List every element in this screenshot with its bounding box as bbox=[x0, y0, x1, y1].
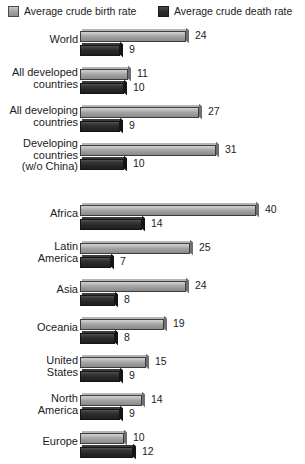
bar-body bbox=[80, 409, 120, 420]
row-label: UnitedStates bbox=[0, 355, 78, 378]
bar-value-label: 9 bbox=[129, 44, 135, 55]
bar-end-cap bbox=[142, 392, 145, 408]
bar-birth: 31 bbox=[80, 143, 220, 156]
row-label: Asia bbox=[0, 284, 78, 296]
bar-value-label: 24 bbox=[195, 280, 207, 291]
bar-birth: 11 bbox=[80, 67, 132, 80]
aggregate-group: World249All developedcountries1110All de… bbox=[0, 28, 305, 180]
row-label: NorthAmerica bbox=[0, 393, 78, 416]
bar-body bbox=[80, 205, 256, 216]
bar-end-cap bbox=[256, 202, 259, 218]
bar-end-cap bbox=[115, 292, 118, 308]
bar-death: 7 bbox=[80, 255, 115, 268]
bar-end-cap bbox=[186, 278, 189, 294]
bar-end-cap bbox=[164, 316, 167, 332]
bar-value-label: 8 bbox=[124, 332, 130, 343]
bar-value-label: 7 bbox=[120, 256, 126, 267]
legend-label-birth: Average crude birth rate bbox=[24, 6, 136, 17]
bar-body bbox=[80, 219, 142, 230]
row-label: Oceania bbox=[0, 322, 78, 334]
chart-row: All developedcountries1110 bbox=[0, 66, 305, 104]
bar-body bbox=[80, 243, 190, 254]
bar-end-cap bbox=[124, 156, 127, 172]
bar-value-label: 9 bbox=[129, 408, 135, 419]
bar-body bbox=[80, 371, 120, 382]
bar-birth: 24 bbox=[80, 29, 190, 42]
bar-end-cap bbox=[128, 66, 131, 82]
row-label: Europe bbox=[0, 436, 78, 448]
row-label: Developingcountries(w/o China) bbox=[0, 138, 78, 173]
bar-birth: 15 bbox=[80, 355, 150, 368]
bar-death: 9 bbox=[80, 407, 124, 420]
bar-death: 9 bbox=[80, 369, 124, 382]
bar-body bbox=[80, 257, 111, 268]
bar-birth: 27 bbox=[80, 105, 203, 118]
bar-end-cap bbox=[190, 240, 193, 256]
bar-birth: 24 bbox=[80, 279, 190, 292]
chart-row: Asia248 bbox=[0, 278, 305, 316]
bar-value-label: 9 bbox=[129, 120, 135, 131]
bar-value-label: 14 bbox=[151, 394, 163, 405]
bar-body bbox=[80, 145, 216, 156]
bar-body bbox=[80, 45, 120, 56]
chart-row: Oceania198 bbox=[0, 316, 305, 354]
bar-body bbox=[80, 107, 199, 118]
bar-value-label: 10 bbox=[133, 158, 145, 169]
bar-death: 9 bbox=[80, 119, 124, 132]
bar-value-label: 19 bbox=[173, 318, 185, 329]
bar-value-label: 11 bbox=[137, 68, 148, 79]
row-label: Africa bbox=[0, 208, 78, 220]
bar-death: 14 bbox=[80, 217, 146, 230]
bar-value-label: 25 bbox=[199, 242, 211, 253]
bar-value-label: 9 bbox=[129, 370, 135, 381]
bar-end-cap bbox=[120, 368, 123, 384]
bar-body bbox=[80, 433, 124, 444]
bar-birth: 25 bbox=[80, 241, 194, 254]
bar-body bbox=[80, 319, 164, 330]
bar-end-cap bbox=[146, 354, 149, 370]
bar-birth: 19 bbox=[80, 317, 168, 330]
bar-body bbox=[80, 159, 124, 170]
bar-value-label: 10 bbox=[133, 82, 145, 93]
bar-birth: 14 bbox=[80, 393, 146, 406]
bar-death: 8 bbox=[80, 331, 119, 344]
bar-end-cap bbox=[115, 330, 118, 346]
bar-body bbox=[80, 31, 186, 42]
bar-birth: 10 bbox=[80, 431, 128, 444]
bar-value-label: 24 bbox=[195, 30, 207, 41]
bar-value-label: 40 bbox=[265, 204, 277, 215]
legend-swatch-birth-icon bbox=[8, 6, 19, 17]
chart-row: World249 bbox=[0, 28, 305, 66]
bar-end-cap bbox=[120, 406, 123, 422]
bar-end-cap bbox=[133, 444, 136, 460]
bar-value-label: 31 bbox=[225, 144, 237, 155]
bar-end-cap bbox=[124, 430, 127, 446]
row-label: All developingcountries bbox=[0, 105, 78, 128]
bar-death: 8 bbox=[80, 293, 119, 306]
region-group: Africa4014LatinAmerica257Asia248Oceania1… bbox=[0, 202, 305, 464]
chart-row: NorthAmerica149 bbox=[0, 392, 305, 430]
bar-end-cap bbox=[199, 104, 202, 120]
bar-death: 10 bbox=[80, 157, 128, 170]
legend-item-birth-rate: Average crude birth rate bbox=[8, 6, 136, 17]
bar-end-cap bbox=[120, 118, 123, 134]
chart-row: UnitedStates159 bbox=[0, 354, 305, 392]
bar-end-cap bbox=[216, 142, 219, 158]
legend-swatch-death-icon bbox=[158, 6, 169, 17]
chart-legend: Average crude birth rate Average crude d… bbox=[0, 6, 305, 26]
bar-value-label: 8 bbox=[124, 294, 130, 305]
bar-death: 12 bbox=[80, 445, 137, 458]
chart-row: Africa4014 bbox=[0, 202, 305, 240]
row-label: All developedcountries bbox=[0, 67, 78, 90]
bar-body bbox=[80, 295, 115, 306]
bar-value-label: 15 bbox=[155, 356, 167, 367]
row-label: World bbox=[0, 34, 78, 46]
bar-body bbox=[80, 357, 146, 368]
legend-label-death: Average crude death rate bbox=[174, 6, 292, 17]
bar-birth: 40 bbox=[80, 203, 260, 216]
bar-body bbox=[80, 333, 115, 344]
bar-end-cap bbox=[124, 80, 127, 96]
bar-value-label: 14 bbox=[151, 218, 163, 229]
chart-row: Europe1012 bbox=[0, 430, 305, 464]
